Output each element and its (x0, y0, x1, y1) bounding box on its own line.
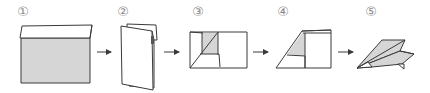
step-4-angled-fold (276, 30, 331, 68)
diagram-drawing (0, 0, 430, 93)
step-1-sheet (20, 25, 92, 83)
step-3-corner-fold (190, 32, 247, 68)
step-5-paper-airplane (357, 40, 414, 69)
step-2-folded-sheet (121, 24, 157, 90)
